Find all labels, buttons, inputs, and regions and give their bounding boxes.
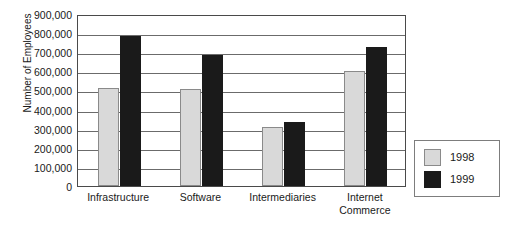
bar-group bbox=[98, 16, 141, 186]
bars-layer bbox=[78, 16, 405, 186]
y-axis-tick-label: 700,000 bbox=[14, 48, 72, 58]
legend-item-1998[interactable]: 1998 bbox=[424, 148, 474, 167]
bar-1999-infrastructure[interactable] bbox=[120, 36, 141, 186]
legend-label-1999: 1999 bbox=[450, 174, 474, 185]
x-axis-category-labels: InfrastructureSoftwareIntermediariesInte… bbox=[77, 191, 406, 231]
bar-1998-internet-commerce[interactable] bbox=[344, 71, 365, 186]
legend-label-1998: 1998 bbox=[450, 152, 474, 163]
y-axis-tick-label: 100,000 bbox=[14, 163, 72, 173]
bar-1998-software[interactable] bbox=[180, 89, 201, 186]
x-axis-label: Infrastructure bbox=[77, 191, 159, 204]
bar-chart: Number of Employees 0100,000200,000300,0… bbox=[0, 0, 515, 234]
legend-swatch-1999 bbox=[424, 171, 441, 188]
y-axis-tick-label: 400,000 bbox=[14, 106, 72, 116]
bar-group bbox=[344, 16, 387, 186]
y-axis-tick-labels: 0100,000200,000300,000400,000500,000600,… bbox=[14, 0, 72, 234]
bar-1998-infrastructure[interactable] bbox=[98, 88, 119, 186]
bar-1999-intermediaries[interactable] bbox=[284, 122, 305, 186]
y-axis-tick-label: 600,000 bbox=[14, 67, 72, 77]
bar-1999-software[interactable] bbox=[202, 55, 223, 186]
bar-1999-internet-commerce[interactable] bbox=[366, 47, 387, 186]
legend: 1998 1999 bbox=[414, 140, 500, 197]
bar-1998-intermediaries[interactable] bbox=[262, 127, 283, 186]
x-axis-label: Intermediaries bbox=[242, 191, 324, 204]
x-axis-label: Software bbox=[159, 191, 241, 204]
y-axis-tick-label: 900,000 bbox=[14, 10, 72, 20]
y-axis-tick-label: 300,000 bbox=[14, 125, 72, 135]
bar-group bbox=[180, 16, 223, 186]
y-axis-tick-label: 800,000 bbox=[14, 29, 72, 39]
legend-swatch-1998 bbox=[424, 149, 441, 166]
y-axis-tick-label: 0 bbox=[14, 182, 72, 192]
bar-group bbox=[262, 16, 305, 186]
y-axis-tick-label: 500,000 bbox=[14, 86, 72, 96]
x-axis-label: Internet Commerce bbox=[324, 191, 406, 216]
legend-item-1999[interactable]: 1999 bbox=[424, 170, 474, 189]
y-axis-tick-label: 200,000 bbox=[14, 144, 72, 154]
plot-area bbox=[77, 15, 406, 187]
